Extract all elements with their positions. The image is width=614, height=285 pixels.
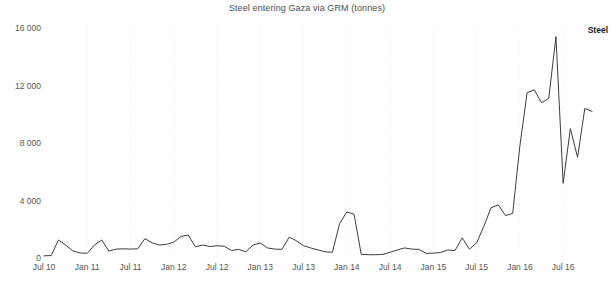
x-axis-tick-label: Jan 12: [161, 262, 187, 272]
x-axis-tick-label: Jan 15: [421, 262, 447, 272]
x-axis-tick-label: Jul 15: [465, 262, 488, 272]
y-axis-tick-label: 12 000: [1, 81, 41, 91]
x-axis-tick-label: Jul 12: [206, 262, 229, 272]
x-axis-tick-label: Jul 10: [33, 262, 56, 272]
chart-container: Steel entering Gaza via GRM (tonnes) Ste…: [0, 0, 614, 285]
plot-area: [44, 28, 592, 258]
chart-title: Steel entering Gaza via GRM (tonnes): [0, 3, 614, 13]
x-axis-tick-label: Jan 11: [75, 262, 100, 272]
x-axis-tick-label: Jul 13: [292, 262, 315, 272]
y-axis-labels: 04 0008 00012 00016 000: [0, 28, 41, 258]
x-axis-tick-label: Jan 16: [507, 262, 533, 272]
x-axis-labels: Jul 10Jan 11Jul 11Jan 12Jul 12Jan 13Jul …: [44, 262, 592, 278]
gridlines: [87, 28, 563, 258]
x-axis-tick-label: Jul 16: [552, 262, 575, 272]
series-line-steel: [44, 37, 592, 256]
chart-svg: [44, 28, 592, 258]
y-axis-tick-label: 4 000: [1, 196, 41, 206]
y-axis-tick-label: 8 000: [1, 138, 41, 148]
x-axis-tick-label: Jul 11: [119, 262, 141, 272]
x-axis-tick-label: Jan 14: [334, 262, 360, 272]
x-axis-tick-label: Jan 13: [248, 262, 274, 272]
y-axis-tick-label: 16 000: [1, 23, 41, 33]
x-axis-tick-label: Jul 14: [379, 262, 402, 272]
